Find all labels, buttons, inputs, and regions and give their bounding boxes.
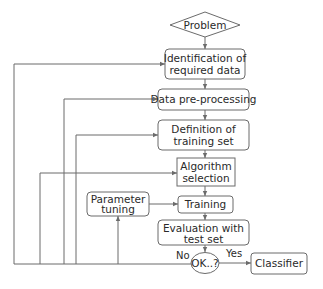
node-parameter-label-2: tuning bbox=[101, 203, 135, 215]
node-problem: Problem bbox=[170, 12, 240, 37]
node-problem-label: Problem bbox=[184, 19, 227, 31]
edge-label-no: No bbox=[176, 250, 190, 261]
node-definition-label-1: Definition of bbox=[171, 123, 236, 135]
node-parameter: Parameter tuning bbox=[87, 192, 149, 216]
edge-ok-algorithm bbox=[40, 173, 177, 264]
node-algorithm-label-2: selection bbox=[182, 172, 229, 184]
node-definition: Definition of training set bbox=[158, 120, 249, 150]
node-identification-label-1: Identification of bbox=[164, 52, 247, 64]
node-identification-label-2: required data bbox=[170, 64, 241, 76]
node-training-label: Training bbox=[184, 198, 226, 210]
node-classifier: Classifier bbox=[251, 253, 307, 274]
node-ok: OK..? bbox=[191, 253, 219, 274]
node-classifier-label: Classifier bbox=[255, 257, 304, 269]
edge-ok-identification bbox=[14, 64, 165, 264]
node-training: Training bbox=[178, 196, 233, 213]
node-evaluation-label-2: test set bbox=[184, 233, 224, 245]
node-ok-label: OK..? bbox=[191, 257, 218, 269]
node-evaluation: Evaluation with test set bbox=[158, 220, 249, 245]
node-definition-label-2: training set bbox=[173, 135, 233, 147]
node-algorithm: Algorithm selection bbox=[177, 158, 235, 186]
edge-label-yes: Yes bbox=[225, 248, 242, 259]
node-preprocessing-label: Data pre-processing bbox=[151, 93, 257, 105]
node-identification: Identification of required data bbox=[164, 49, 247, 79]
node-algorithm-label-1: Algorithm bbox=[180, 160, 231, 172]
edge-ok-preprocessing bbox=[64, 99, 158, 264]
node-preprocessing: Data pre-processing bbox=[151, 89, 257, 110]
flowchart: Problem Identification of required data … bbox=[0, 0, 323, 289]
